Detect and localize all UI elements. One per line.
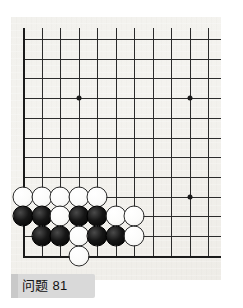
caption-tab: 问题 81 xyxy=(11,274,95,298)
stone-layer xyxy=(11,17,221,280)
caption-label: 问题 81 xyxy=(22,274,68,298)
white-stone xyxy=(68,245,89,266)
go-board xyxy=(11,17,221,280)
caption-tab-accent xyxy=(11,274,18,298)
screenshot-root: 问题 81 xyxy=(0,0,243,308)
white-stone xyxy=(124,226,145,247)
white-stone xyxy=(124,206,145,227)
white-stone xyxy=(87,186,108,207)
